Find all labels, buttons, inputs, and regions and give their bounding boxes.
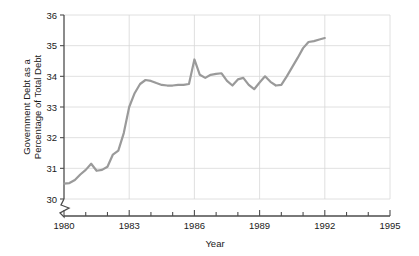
- y-tick-label: 36: [46, 10, 57, 21]
- y-axis-title: Government Debt as aPercentage of Total …: [21, 54, 43, 159]
- y-tick-label: 33: [46, 102, 57, 113]
- x-tick-label: 1980: [53, 220, 74, 231]
- y-tick-label: 35: [46, 40, 57, 51]
- x-tick-label: 1995: [379, 220, 400, 231]
- line-chart: 30313233343536198019831986198919921995Ye…: [0, 0, 419, 256]
- x-axis-title: Year: [205, 238, 224, 249]
- x-tick-label: 1983: [119, 220, 140, 231]
- y-tick-label: 32: [46, 132, 57, 143]
- x-tick-label: 1989: [249, 220, 270, 231]
- y-tick-label: 31: [46, 163, 57, 174]
- x-tick-label: 1992: [314, 220, 335, 231]
- y-tick-label: 34: [46, 71, 57, 82]
- y-axis-title-line2: Percentage of Total Debt: [32, 54, 43, 159]
- chart-figure: 30313233343536198019831986198919921995Ye…: [0, 0, 419, 256]
- y-tick-label: 30: [46, 194, 57, 205]
- y-axis-title-line1: Government Debt as a: [21, 58, 32, 154]
- x-tick-label: 1986: [184, 220, 205, 231]
